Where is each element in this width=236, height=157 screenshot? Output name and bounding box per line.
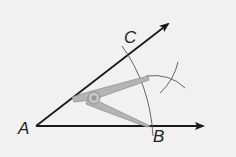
point-label-a: A	[18, 119, 29, 139]
arc-from-b	[146, 76, 185, 89]
compass-icon	[72, 76, 150, 127]
angle-bisector-diagram: A B C	[0, 0, 236, 157]
diagram-svg	[0, 0, 236, 157]
point-label-b: B	[153, 127, 164, 147]
point-label-c: C	[124, 28, 136, 48]
ray-ac	[36, 24, 168, 126]
